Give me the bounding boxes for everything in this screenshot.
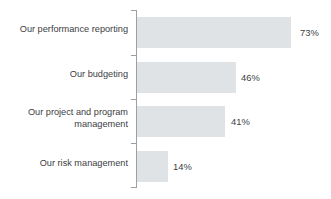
category-label: Our budgeting [0, 69, 128, 81]
bar-row: Our performance reporting 73% [0, 10, 331, 55]
bar-value-label: 41% [231, 116, 250, 127]
bar-value-label: 73% [300, 27, 319, 38]
bar-segment [137, 106, 225, 137]
bar-chart: Our performance reporting 73% Our budget… [0, 0, 331, 199]
bar-segment [137, 151, 168, 182]
bar-segment [137, 62, 236, 93]
bar-row: Our budgeting 46% [0, 55, 331, 100]
bar-value-label: 14% [173, 161, 192, 172]
bar-row: Our risk management 14% [0, 144, 331, 189]
category-label: Our performance reporting [0, 24, 128, 36]
category-label: Our risk management [0, 158, 128, 170]
bar-value-label: 46% [241, 72, 260, 83]
bar-row: Our project and program management 41% [0, 99, 331, 144]
bar-segment [137, 17, 291, 48]
category-label: Our project and program management [0, 107, 128, 130]
